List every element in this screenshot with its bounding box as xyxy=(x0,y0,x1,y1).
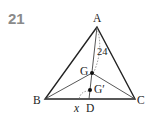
label-g: G xyxy=(80,65,88,77)
label-unknown-x: x xyxy=(73,102,80,114)
label-c: C xyxy=(137,94,145,106)
label-b: B xyxy=(33,94,41,106)
label-d: D xyxy=(86,102,94,114)
label-g-prime: G′ xyxy=(94,83,105,95)
label-length-24: 24 xyxy=(97,46,108,57)
point-g xyxy=(90,71,94,75)
triangle-diagram: A B C G G′ D 24 x xyxy=(0,0,155,117)
point-g-prime xyxy=(88,88,92,92)
label-a: A xyxy=(93,12,102,24)
